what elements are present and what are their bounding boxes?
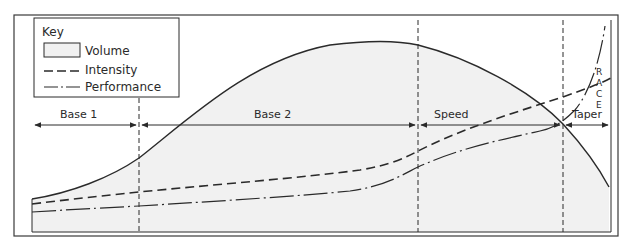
legend-title: Key: [42, 25, 64, 39]
race-letter-a: A: [596, 78, 603, 88]
legend-volume-swatch: [44, 43, 80, 57]
race-letter-c: C: [596, 89, 602, 99]
legend: Key Volume Intensity Performance: [34, 18, 179, 97]
legend-performance-label: Performance: [85, 80, 161, 94]
race-letter-e: E: [596, 100, 602, 110]
training-periodization-diagram: Base 1 Base 2 Speed Taper R A C E Key Vo…: [0, 0, 625, 250]
legend-volume-label: Volume: [85, 44, 130, 58]
legend-intensity-label: Intensity: [85, 63, 137, 77]
phase-label-speed: Speed: [434, 108, 468, 121]
phase-label-base1: Base 1: [60, 108, 97, 121]
race-letter-r: R: [596, 67, 602, 77]
phase-label-base2: Base 2: [254, 108, 291, 121]
